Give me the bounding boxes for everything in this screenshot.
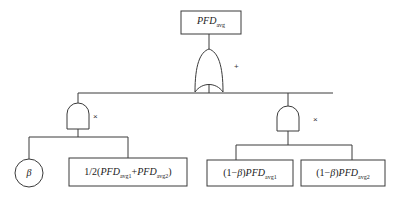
half-sum-label: 1/2(PFDavg1+PFDavg2): [69, 167, 187, 179]
indep2-sub: avg2: [358, 174, 370, 180]
top-event-main: PFD: [197, 15, 216, 26]
half-sum-term1: PFD: [100, 166, 119, 177]
indep1-term: PFD: [246, 167, 265, 178]
right-and-gate-icon: [277, 106, 299, 131]
indep2-prefix: (1−: [316, 167, 330, 178]
indep1-prefix: (1−: [223, 167, 237, 178]
half-sum-sub1: avg1: [120, 173, 132, 179]
top-event-sub: avg: [216, 22, 225, 28]
indep2-term: PFD: [339, 167, 358, 178]
half-sum-suffix: ): [168, 166, 171, 177]
indep1-label: (1−β)PFDavg1: [207, 168, 293, 180]
indep2-label: (1−β)PFDavg2: [301, 168, 385, 180]
top-event-label: PFDavg: [181, 16, 241, 28]
half-sum-term2: PFD: [137, 166, 156, 177]
half-sum-prefix: 1/2(: [84, 166, 100, 177]
indep1-sub: avg1: [265, 174, 277, 180]
or-gate-symbol: +: [234, 62, 239, 71]
left-and-gate-icon: [67, 103, 89, 129]
left-and-gate-symbol: ×: [93, 112, 98, 121]
half-sum-sub2: avg2: [157, 173, 169, 179]
beta-label: β: [15, 168, 43, 178]
right-and-gate-symbol: ×: [313, 115, 318, 124]
